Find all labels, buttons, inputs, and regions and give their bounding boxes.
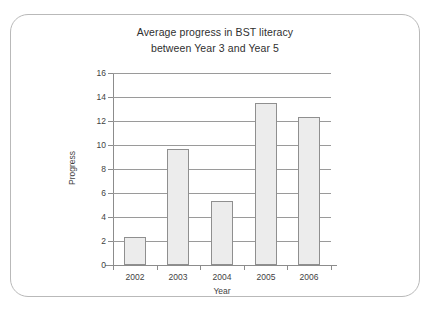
- y-axis-tick: [108, 193, 113, 194]
- x-axis-tick: [157, 265, 158, 270]
- y-axis-tick: [108, 97, 113, 98]
- x-axis-title: Year: [113, 286, 331, 296]
- gridline: [113, 73, 331, 74]
- x-axis-tick: [113, 265, 114, 270]
- bar: [298, 117, 320, 265]
- x-axis-tick: [287, 265, 288, 270]
- gridline: [113, 97, 331, 98]
- x-axis-line: [105, 265, 337, 266]
- x-axis-tick-label: 2003: [156, 272, 200, 282]
- x-axis-tick-label: 2004: [200, 272, 244, 282]
- y-axis-tick-labels-group: 0246810121416: [80, 0, 106, 314]
- x-axis-tick: [244, 265, 245, 270]
- y-axis-tick-label: 6: [82, 188, 106, 198]
- bar: [255, 103, 277, 265]
- chart-title-line-1: Average progress in BST literacy: [10, 24, 420, 40]
- x-axis-tick-label: 2005: [244, 272, 288, 282]
- bar: [167, 149, 189, 265]
- y-axis-tick-label: 14: [82, 92, 106, 102]
- y-axis-tick: [108, 121, 113, 122]
- chart-title-line-2: between Year 3 and Year 5: [10, 40, 420, 56]
- y-axis-tick: [108, 145, 113, 146]
- y-axis-tick: [108, 217, 113, 218]
- bar: [124, 237, 146, 265]
- y-axis-tick: [108, 73, 113, 74]
- y-axis-tick-label: 12: [82, 116, 106, 126]
- x-axis-tick-label: 2002: [113, 272, 157, 282]
- y-axis-tick-label: 16: [82, 68, 106, 78]
- x-axis-tick: [331, 265, 332, 270]
- y-axis-tick-label: 8: [82, 164, 106, 174]
- chart-title: Average progress in BST literacy between…: [10, 24, 420, 56]
- y-axis-title: Progress: [67, 151, 77, 185]
- y-axis-tick-label: 10: [82, 140, 106, 150]
- x-axis-tick-label: 2006: [287, 272, 331, 282]
- y-axis-tick-label: 4: [82, 212, 106, 222]
- y-axis-tick-label: 2: [82, 236, 106, 246]
- y-axis-tick: [108, 241, 113, 242]
- y-axis-tick: [108, 169, 113, 170]
- y-axis-tick-label: 0: [82, 260, 106, 270]
- x-axis-tick: [200, 265, 201, 270]
- chart-screenshot: Average progress in BST literacy between…: [0, 0, 433, 314]
- bar: [211, 201, 233, 265]
